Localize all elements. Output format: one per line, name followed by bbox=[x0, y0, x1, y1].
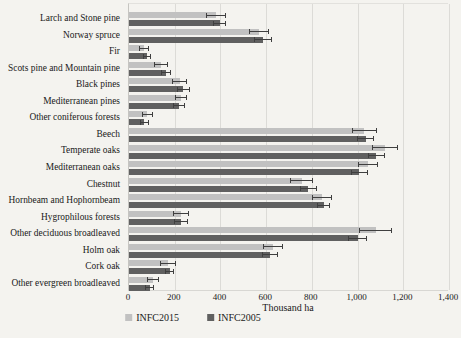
category-label: Beech bbox=[0, 126, 124, 143]
bar-infc2015-9 bbox=[129, 161, 368, 167]
error-bar-cap bbox=[184, 103, 185, 108]
bar-infc2005-4 bbox=[129, 86, 183, 92]
error-bar-cap bbox=[384, 153, 385, 158]
bar-infc2015-5 bbox=[129, 95, 181, 101]
legend: INFC2015 INFC2005 bbox=[125, 312, 261, 323]
error-bar-cap bbox=[376, 128, 377, 133]
legend-swatch-infc2015-icon bbox=[125, 314, 132, 321]
category-label: Black pines bbox=[0, 76, 124, 93]
error-bar-cap bbox=[331, 195, 332, 200]
bar-infc2015-10 bbox=[129, 178, 302, 184]
x-axis-title: Thousand ha bbox=[262, 302, 313, 313]
error-bar-cap bbox=[148, 46, 149, 51]
category-label: Scots pine and Mountain pine bbox=[0, 60, 124, 77]
category-label: Cork oak bbox=[0, 258, 124, 275]
error-bar-cap bbox=[366, 236, 367, 241]
error-bar-cap bbox=[173, 269, 174, 274]
category-label: Fir bbox=[0, 43, 124, 60]
bar-infc2015-13 bbox=[129, 227, 376, 233]
error-bar-cap bbox=[140, 120, 141, 125]
error-bar-cap bbox=[225, 21, 226, 26]
error-bar-cap bbox=[213, 21, 214, 26]
error-bar-cap bbox=[154, 62, 155, 67]
category-label: Chestnut bbox=[0, 175, 124, 192]
legend-label-infc2005: INFC2005 bbox=[218, 312, 261, 323]
bar-infc2005-15 bbox=[129, 268, 170, 274]
error-bar-cap bbox=[142, 112, 143, 117]
error-bar bbox=[357, 138, 374, 139]
error-bar-cap bbox=[268, 29, 269, 34]
error-bar-cap bbox=[174, 219, 175, 224]
category-label: Larch and Stone pine bbox=[0, 10, 124, 27]
error-bar-cap bbox=[158, 277, 159, 282]
gridline bbox=[403, 4, 404, 290]
error-bar-cap bbox=[147, 277, 148, 282]
bar-infc2005-8 bbox=[129, 153, 376, 159]
error-bar-cap bbox=[175, 95, 176, 100]
legend-item-infc2015: INFC2015 bbox=[125, 312, 179, 323]
bar-infc2005-1 bbox=[129, 37, 263, 43]
bar-chart: Larch and Stone pineNorway spruceFirScot… bbox=[0, 0, 461, 338]
gridline bbox=[449, 4, 450, 290]
bar-infc2015-11 bbox=[129, 194, 322, 200]
error-bar-cap bbox=[186, 79, 187, 84]
error-bar bbox=[160, 263, 176, 264]
error-bar-cap bbox=[290, 178, 291, 183]
bar-infc2005-0 bbox=[129, 20, 220, 26]
error-bar-cap bbox=[351, 170, 352, 175]
error-bar-cap bbox=[206, 13, 207, 18]
category-label: Holm oak bbox=[0, 241, 124, 258]
category-label: Norway spruce bbox=[0, 27, 124, 44]
x-tick-label: 1,200 bbox=[392, 292, 412, 302]
error-bar bbox=[317, 205, 330, 206]
category-label: Other evergreen broadleaved bbox=[0, 274, 124, 291]
error-bar bbox=[249, 31, 269, 32]
error-bar bbox=[359, 230, 392, 231]
error-bar bbox=[372, 147, 399, 148]
error-bar-cap bbox=[262, 252, 263, 257]
error-bar bbox=[174, 221, 188, 222]
error-bar-cap bbox=[397, 145, 398, 150]
error-bar bbox=[348, 238, 368, 239]
error-bar-cap bbox=[254, 37, 255, 42]
error-bar bbox=[262, 254, 278, 255]
error-bar bbox=[290, 180, 313, 181]
error-bar-cap bbox=[317, 203, 318, 208]
error-bar-cap bbox=[186, 95, 187, 100]
bar-infc2015-1 bbox=[129, 29, 259, 35]
error-bar-cap bbox=[329, 203, 330, 208]
category-label: Temperate oaks bbox=[0, 142, 124, 159]
error-bar-cap bbox=[153, 285, 154, 290]
error-bar-cap bbox=[263, 244, 264, 249]
legend-label-infc2015: INFC2015 bbox=[136, 312, 179, 323]
error-bar-cap bbox=[165, 269, 166, 274]
category-label: Mediterranean pines bbox=[0, 93, 124, 110]
error-bar bbox=[368, 155, 384, 156]
bar-infc2005-13 bbox=[129, 235, 358, 241]
error-bar-cap bbox=[373, 136, 374, 141]
bar-infc2015-7 bbox=[129, 128, 364, 134]
x-tick-label: 1,000 bbox=[346, 292, 366, 302]
error-bar-cap bbox=[152, 112, 153, 117]
x-tick-label: 600 bbox=[258, 292, 272, 302]
error-bar-cap bbox=[348, 236, 349, 241]
bar-infc2005-9 bbox=[129, 169, 359, 175]
error-bar bbox=[263, 246, 283, 247]
x-tick-label: 800 bbox=[304, 292, 318, 302]
error-bar-cap bbox=[160, 261, 161, 266]
error-bar bbox=[312, 197, 332, 198]
error-bar-cap bbox=[188, 211, 189, 216]
error-bar-cap bbox=[173, 211, 174, 216]
error-bar-cap bbox=[150, 54, 151, 59]
bar-infc2005-7 bbox=[129, 136, 366, 142]
error-bar-cap bbox=[145, 285, 146, 290]
error-bar bbox=[154, 64, 168, 65]
error-bar-cap bbox=[372, 145, 373, 150]
category-label: Hygrophilous forests bbox=[0, 208, 124, 225]
error-bar-cap bbox=[173, 103, 174, 108]
x-tick-label: 1,400 bbox=[438, 292, 458, 302]
error-bar-cap bbox=[282, 244, 283, 249]
x-tick-label: 0 bbox=[126, 292, 131, 302]
error-bar-cap bbox=[143, 54, 144, 59]
error-bar-cap bbox=[352, 128, 353, 133]
